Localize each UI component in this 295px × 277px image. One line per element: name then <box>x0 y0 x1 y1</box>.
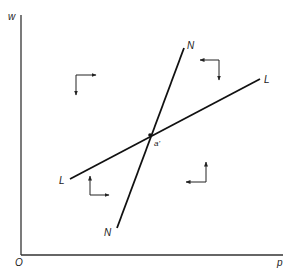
intersection-label: a' <box>154 139 160 148</box>
direction-indicator-upper-left <box>76 75 96 95</box>
phase-diagram: w O p N N L L a' <box>0 0 295 277</box>
nn-curve <box>117 48 184 228</box>
nn-curve-label-bottom: N <box>104 227 112 238</box>
direction-indicator-lower-left <box>90 176 109 195</box>
intersection-point <box>148 133 152 137</box>
nn-curve-label-top: N <box>187 40 195 51</box>
origin-label: O <box>15 257 23 268</box>
ll-curve-label-left: L <box>59 175 65 186</box>
ll-curve <box>70 79 260 179</box>
ll-curve-label-right: L <box>264 74 270 85</box>
y-axis-label: w <box>8 11 16 22</box>
direction-indicator-lower-right <box>186 162 206 182</box>
direction-indicator-upper-right <box>200 60 219 80</box>
x-axis-label: p <box>276 257 283 268</box>
